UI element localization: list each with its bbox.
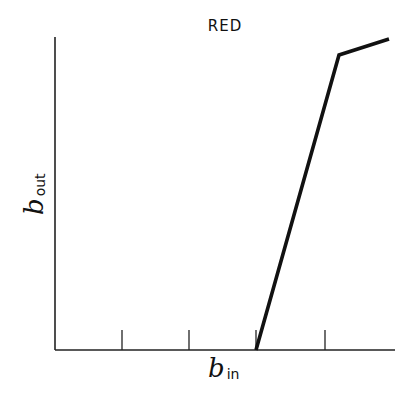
y-axis-label: bout: [19, 173, 49, 215]
x-ticks: [122, 330, 325, 350]
x-axis-label: bin: [208, 353, 239, 383]
transfer-curve: [256, 39, 389, 350]
chart-title: RED: [208, 17, 242, 35]
chart: RED bin bout: [0, 0, 419, 393]
